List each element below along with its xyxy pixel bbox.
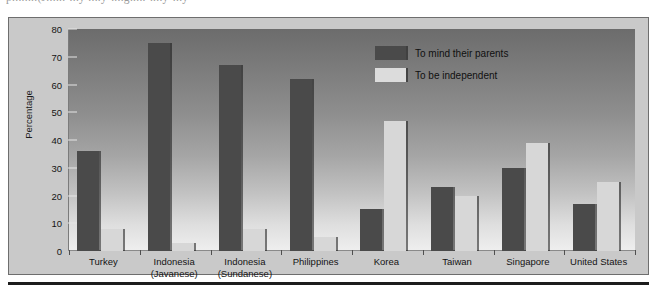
bar-mind-parents <box>219 65 241 251</box>
bar-mind-parents <box>431 187 453 251</box>
bar-mind-parents <box>360 209 382 251</box>
bar-independent <box>597 182 619 251</box>
x-axis-tick-mark <box>352 250 353 255</box>
legend-item-mind-parents: To mind their parents <box>375 46 508 60</box>
bar-group <box>281 29 352 251</box>
x-axis-tick-mark <box>423 250 424 255</box>
legend-label-mind-parents: To mind their parents <box>415 48 508 59</box>
chart-legend: To mind their parents To be independent <box>375 46 508 90</box>
chart-figure-panel: Percentage 01020304050607080 TurkeyIndon… <box>8 17 649 275</box>
page-header-cutoff-text: p........(J......-...y ....y-....g.....-… <box>6 0 336 5</box>
y-axis-tick-label: 40 <box>51 135 62 146</box>
bar-mind-parents <box>573 204 595 251</box>
x-axis-tick-mark <box>281 250 282 255</box>
x-axis-tick-mark <box>211 250 212 255</box>
y-axis-tick-label: 80 <box>51 24 62 35</box>
x-axis-label-line: United States <box>570 256 627 268</box>
bar-independent <box>314 237 336 251</box>
y-axis-tick-label: 50 <box>51 107 62 118</box>
bar-series-container <box>69 29 635 251</box>
x-axis-label: Korea <box>374 256 399 268</box>
x-axis-label-line: Korea <box>374 256 399 268</box>
bar-group <box>564 29 635 251</box>
x-axis-label-line: Indonesia <box>151 256 198 268</box>
x-axis-label-line: Singapore <box>506 256 549 268</box>
y-axis-tick-label: 0 <box>57 246 62 257</box>
x-axis-label: Indonesia(Javanese) <box>151 256 198 279</box>
bar-mind-parents <box>77 151 99 251</box>
x-axis-tick-mark <box>564 250 565 255</box>
y-axis-tick-label: 10 <box>51 218 62 229</box>
x-axis-label: Singapore <box>506 256 549 268</box>
x-axis-label: United States <box>570 256 627 268</box>
x-axis-label: Turkey <box>89 256 118 268</box>
x-axis-label: Taiwan <box>442 256 472 268</box>
x-axis-label-line: (Javanese) <box>151 268 198 280</box>
x-axis-tick-mark <box>494 250 495 255</box>
x-axis-tick-mark <box>635 250 636 255</box>
legend-label-independent: To be independent <box>415 70 497 81</box>
bar-independent <box>455 196 477 252</box>
y-axis-tick-label: 30 <box>51 162 62 173</box>
bar-independent <box>172 243 194 251</box>
bottom-horizontal-rule <box>8 282 649 285</box>
bar-mind-parents <box>502 168 524 251</box>
bar-mind-parents <box>148 43 170 251</box>
y-axis-title: Percentage <box>23 65 34 165</box>
bar-independent <box>243 229 265 251</box>
legend-swatch-icon-dark <box>375 46 406 60</box>
x-axis-tick-mark <box>140 250 141 255</box>
x-axis-label-line: Turkey <box>89 256 118 268</box>
bar-independent <box>384 121 406 251</box>
x-axis-label: Philippines <box>293 256 339 268</box>
x-axis-label-line: Taiwan <box>442 256 472 268</box>
y-axis-tick-label: 70 <box>51 51 62 62</box>
x-axis-label-line: Indonesia <box>218 256 272 268</box>
x-axis-label-line: (Sundanese) <box>218 268 272 280</box>
x-axis-tick-mark <box>69 250 70 255</box>
y-axis-tick-label: 60 <box>51 79 62 90</box>
legend-item-independent: To be independent <box>375 68 508 82</box>
x-axis-label: Indonesia(Sundanese) <box>218 256 272 279</box>
legend-swatch-icon-light <box>375 68 406 82</box>
bar-group <box>140 29 211 251</box>
bar-mind-parents <box>290 79 312 251</box>
bar-independent <box>101 229 123 251</box>
bar-group <box>69 29 140 251</box>
x-axis-label-line: Philippines <box>293 256 339 268</box>
bar-group <box>211 29 282 251</box>
y-axis-tick-label: 20 <box>51 190 62 201</box>
bar-independent <box>526 143 548 251</box>
